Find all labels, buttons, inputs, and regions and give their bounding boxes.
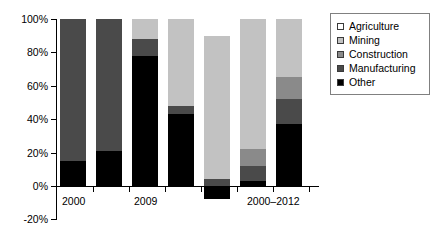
x-tick-mark: [201, 187, 202, 192]
bar-segment[interactable]: [168, 106, 194, 114]
y-tick-label: 60%: [27, 81, 48, 92]
legend-swatch-icon: [337, 79, 344, 86]
bar[interactable]: [132, 19, 158, 219]
bar[interactable]: [204, 19, 230, 219]
bar-segment[interactable]: [240, 166, 266, 181]
bar-segment[interactable]: [132, 56, 158, 186]
x-tick-mark: [273, 187, 274, 192]
bar-segment[interactable]: [276, 77, 302, 99]
bar-segment[interactable]: [204, 186, 230, 199]
bar-segment[interactable]: [204, 36, 230, 180]
x-tick-label: 2000: [62, 196, 85, 207]
bar[interactable]: [168, 19, 194, 219]
bar-segment[interactable]: [96, 19, 122, 151]
bar[interactable]: [60, 19, 86, 219]
bar-segment[interactable]: [276, 19, 302, 77]
bar-segment[interactable]: [168, 19, 194, 106]
legend: AgricultureMiningConstructionManufacturi…: [330, 13, 430, 95]
bar[interactable]: [240, 19, 266, 219]
bar-segment[interactable]: [132, 19, 158, 39]
legend-item[interactable]: Construction: [337, 47, 424, 61]
legend-item[interactable]: Mining: [337, 33, 424, 47]
y-tick-label: 100%: [21, 14, 48, 25]
legend-swatch-icon: [337, 37, 344, 44]
bar-segment[interactable]: [96, 151, 122, 186]
stacked-bar-chart: 100%80%60%40%20%0%-20% 200020092000–2012…: [0, 0, 434, 238]
legend-swatch-icon: [337, 51, 344, 58]
bar-segment[interactable]: [132, 39, 158, 56]
bar-segment[interactable]: [168, 114, 194, 186]
legend-label: Manufacturing: [349, 63, 416, 74]
legend-item[interactable]: Other: [337, 75, 424, 89]
bar-segment[interactable]: [276, 99, 302, 124]
y-tick-label: 80%: [27, 47, 48, 58]
x-tick-mark: [165, 187, 166, 192]
y-tick-label: 0%: [33, 181, 48, 192]
x-tick-label: 2000–2012: [247, 196, 300, 207]
bar-segment[interactable]: [204, 179, 230, 186]
legend-swatch-icon: [337, 65, 344, 72]
legend-label: Other: [349, 77, 375, 88]
bar[interactable]: [96, 19, 122, 219]
x-tick-mark: [56, 187, 57, 192]
x-tick-mark: [237, 187, 238, 192]
x-tick-mark: [309, 187, 310, 192]
y-tick-label: 40%: [27, 114, 48, 125]
bar-segment[interactable]: [240, 181, 266, 186]
x-tick-mark: [129, 187, 130, 192]
legend-swatch-icon: [337, 23, 344, 30]
y-tick-label: -20%: [23, 214, 48, 225]
y-tick-label: 20%: [27, 148, 48, 159]
plot-area: [57, 19, 318, 219]
x-tick-label: 2009: [134, 196, 157, 207]
legend-label: Construction: [349, 49, 408, 60]
x-tick-mark: [93, 187, 94, 192]
bar-segment[interactable]: [60, 161, 86, 186]
legend-label: Agriculture: [349, 21, 399, 32]
bar[interactable]: [276, 19, 302, 219]
bar-segment[interactable]: [276, 124, 302, 186]
bar-segment[interactable]: [240, 149, 266, 166]
legend-item[interactable]: Manufacturing: [337, 61, 424, 75]
legend-item[interactable]: Agriculture: [337, 19, 424, 33]
bar-segment[interactable]: [60, 19, 86, 161]
legend-label: Mining: [349, 35, 380, 46]
bar-segment[interactable]: [240, 19, 266, 149]
